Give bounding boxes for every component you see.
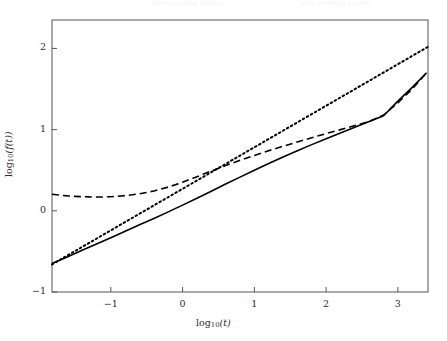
plot-canvas: [0, 0, 447, 341]
x-tick-label: 2: [316, 298, 336, 309]
x-tick-label: 0: [173, 298, 193, 309]
y-tick-label: 0: [30, 204, 46, 215]
x-tick-label: −1: [101, 298, 121, 309]
curve-solid: [52, 73, 427, 264]
axis-ticks: [52, 48, 398, 292]
y-axis-label-base: log: [3, 162, 14, 177]
y-axis-label-subscript: 10: [7, 154, 15, 163]
x-axis-label-subscript: 10: [211, 321, 220, 329]
x-tick-label: 3: [388, 298, 408, 309]
y-tick-label: 1: [30, 123, 46, 134]
data-curves: [52, 47, 428, 265]
y-axis-label-arg: (f(t)): [3, 131, 14, 153]
y-tick-label: 2: [30, 41, 46, 52]
y-axis-label: log10(f(t)): [3, 131, 15, 177]
curve-dotted: [52, 47, 428, 265]
x-tick-label: 1: [244, 298, 264, 309]
figure-root: faint running header faint running heade…: [0, 0, 447, 341]
x-axis-label-base: log: [196, 317, 211, 328]
y-tick-label: −1: [30, 285, 46, 296]
curve-dashed: [52, 73, 427, 197]
x-axis-label: log10(t): [196, 317, 231, 329]
x-axis-label-arg: (t): [220, 317, 231, 328]
